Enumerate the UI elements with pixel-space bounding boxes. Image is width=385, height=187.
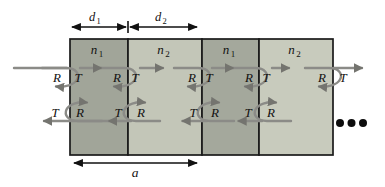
figure-canvas: n 1 n 2 n 1 n 2 d 1 d 2 a: [0, 0, 385, 187]
layer4-index-sub: 2: [296, 49, 301, 59]
transmission-label: T: [114, 105, 122, 120]
dim-d1-sub: 1: [96, 16, 100, 26]
reflection-label: R: [136, 105, 145, 120]
dim-d1-label: d: [89, 10, 96, 24]
reflection-label: R: [75, 105, 84, 120]
layer1-index-label: n: [91, 42, 98, 57]
layer3-index-sub: 1: [231, 49, 236, 59]
reflection-label: R: [52, 70, 61, 85]
transmission-label: T: [74, 70, 82, 85]
reflection-label: R: [244, 70, 253, 85]
reflection-label: R: [187, 70, 196, 85]
layer1-index-sub: 1: [99, 49, 104, 59]
layer2-index-sub: 2: [165, 49, 170, 59]
dim-d2-label: d: [155, 10, 162, 24]
transmission-label: T: [205, 70, 213, 85]
dim-d2-sub: 2: [162, 16, 166, 26]
transmission-label: T: [339, 70, 347, 85]
multilayer-diagram: n 1 n 2 n 1 n 2 d 1 d 2 a: [0, 0, 385, 187]
reflection-label: R: [266, 105, 275, 120]
dim-a-label: a: [132, 165, 139, 180]
reflection-label: R: [210, 105, 219, 120]
reflection-label: R: [112, 70, 121, 85]
layer4-index-label: n: [288, 42, 295, 57]
transmission-label: T: [244, 105, 252, 120]
transmission-label: T: [189, 105, 197, 120]
transmission-label: T: [51, 105, 59, 120]
layer2-index-label: n: [157, 42, 164, 57]
reflection-label: R: [317, 70, 326, 85]
continuation-ellipsis-icon: [336, 119, 367, 127]
transmission-label: T: [131, 70, 139, 85]
layer3-index-label: n: [223, 42, 230, 57]
transmission-label: T: [262, 70, 270, 85]
